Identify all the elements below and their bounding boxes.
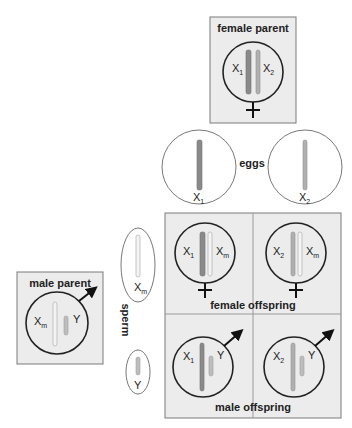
chromosome-x1 bbox=[200, 343, 204, 391]
female-offspring-label: female offspring bbox=[210, 299, 296, 311]
male-parent-panel: male parent Xm Y bbox=[17, 272, 103, 364]
label-y: Y bbox=[217, 349, 225, 361]
chromosome-x1 bbox=[246, 50, 251, 94]
chromosome-x2 bbox=[291, 232, 295, 276]
male-parent-label-y: Y bbox=[73, 313, 81, 325]
label-y: Y bbox=[308, 349, 316, 361]
x-linked-inheritance-diagram: female parent X1 X2 X1 eggs X2 male pare… bbox=[0, 0, 352, 428]
punnett-square: X1 Xm X2 Xm female offspring X1 bbox=[165, 213, 341, 418]
chromosome-xm bbox=[53, 302, 57, 346]
male-parent-title: male parent bbox=[29, 277, 91, 289]
chromosome-xm bbox=[298, 232, 302, 276]
egg-chromosome-x1 bbox=[197, 140, 202, 190]
sperm-label-y: Y bbox=[134, 379, 142, 391]
sperm-label: sperm bbox=[120, 303, 132, 336]
sperm-chromosome-y bbox=[136, 357, 140, 375]
chromosome-y bbox=[300, 356, 304, 376]
male-offspring-label: male offspring bbox=[215, 401, 291, 413]
chromosome-y bbox=[209, 356, 213, 376]
chromosome-x2 bbox=[256, 50, 260, 94]
chromosome-xm bbox=[208, 232, 212, 276]
eggs-label: eggs bbox=[239, 157, 265, 169]
eggs-group: X1 eggs X2 bbox=[162, 130, 342, 205]
female-parent-title: female parent bbox=[217, 22, 289, 34]
chromosome-x2 bbox=[291, 343, 295, 391]
egg-chromosome-x2 bbox=[303, 140, 307, 190]
chromosome-x1 bbox=[200, 232, 205, 276]
sperm-chromosome-xm bbox=[136, 235, 140, 277]
female-parent-panel: female parent X1 X2 bbox=[210, 17, 296, 123]
sperm-group: Xm sperm Y bbox=[120, 228, 155, 394]
chromosome-y bbox=[64, 316, 68, 335]
